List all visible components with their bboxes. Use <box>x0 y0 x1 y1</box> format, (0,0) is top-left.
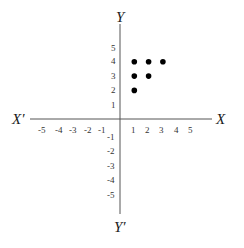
x-tick-label: 5 <box>188 125 193 135</box>
x-tick-label: -1 <box>98 125 106 135</box>
y-tick-label: 3 <box>111 71 116 81</box>
x-tick-label: 3 <box>159 125 164 135</box>
data-point <box>132 88 138 94</box>
x-tick-label: 1 <box>131 125 136 135</box>
y-tick-label: -1 <box>107 132 115 142</box>
x-tick-label: 4 <box>174 125 179 135</box>
y-tick-label: -5 <box>107 190 115 200</box>
data-point <box>146 73 152 79</box>
y-tick-label: -2 <box>107 146 115 156</box>
y-tick-label: -4 <box>107 175 115 185</box>
data-points <box>132 59 166 93</box>
y-tick-label: 4 <box>111 56 116 66</box>
coordinate-plane: Y Y′ X′ X -5 -4 -3 -2 -1 1 2 3 4 5 5 4 3… <box>0 0 244 248</box>
x-axis-negative-label: X′ <box>11 111 25 127</box>
y-tick-label: 5 <box>111 43 116 53</box>
x-tick-label: -5 <box>38 125 46 135</box>
x-tick-label: -2 <box>84 125 92 135</box>
y-tick-label: -3 <box>107 161 115 171</box>
y-tick-label: 1 <box>111 100 116 110</box>
data-point <box>132 73 138 79</box>
x-tick-label: -4 <box>55 125 63 135</box>
y-axis-negative-label: Y′ <box>114 219 126 235</box>
y-axis-positive-label: Y <box>116 9 126 25</box>
x-tick-label: -3 <box>69 125 77 135</box>
x-axis-positive-label: X <box>215 111 226 127</box>
y-tick-label: 2 <box>111 85 116 95</box>
data-point <box>146 59 152 65</box>
data-point <box>160 59 166 65</box>
x-tick-label: 2 <box>145 125 150 135</box>
data-point <box>132 59 138 65</box>
